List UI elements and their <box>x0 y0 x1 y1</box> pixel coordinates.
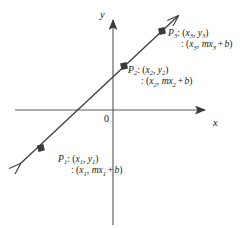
y-axis-label: y <box>100 9 105 21</box>
point-label-p3-line2: : (x3, mx3+b) <box>168 38 233 49</box>
point-label-p3: P3: (x3, y3) : (x3, mx3+b) <box>168 27 233 50</box>
origin-label: 0 <box>104 113 109 125</box>
line-graph-figure: y x 0 P3: (x3, y3) : (x3, mx3+b) P2: (x2… <box>0 0 250 228</box>
point-label-p2-line1: P2: (x2, y2) <box>128 64 193 75</box>
point-label-p2-line2: : (x2, mx2+b) <box>128 75 193 86</box>
point-label-p2: P2: (x2, y2) : (x2, mx2+b) <box>128 64 193 87</box>
point-marker-p1 <box>37 144 45 152</box>
point-label-p1: P1: (x1, y1) : (x1, mx1+b) <box>58 153 123 176</box>
point-label-p1-line1: P1: (x1, y1) <box>58 153 123 164</box>
point-label-p1-line2: : (x1, mx1+b) <box>58 164 123 175</box>
function-line <box>20 16 178 164</box>
point-label-p3-line1: P3: (x3, y3) <box>168 27 233 38</box>
x-axis-label: x <box>213 117 218 129</box>
